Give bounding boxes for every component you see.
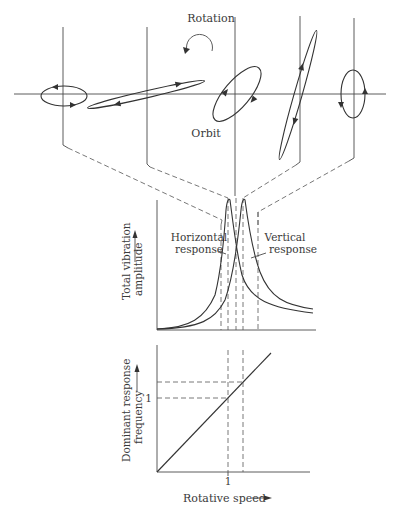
orbit-arrow-icon xyxy=(291,117,299,125)
orbit-arrow-icon xyxy=(298,62,306,70)
orbit-arrow-icon xyxy=(70,102,76,108)
orbit-to-response-connectors xyxy=(68,148,349,225)
orbit-label: Orbit xyxy=(191,127,221,140)
svg-text:response: response xyxy=(269,243,317,255)
frequency-chart: 1 1 Dominant response frequency Rotative… xyxy=(120,345,310,505)
rotative-speed-label: Rotative speed xyxy=(183,492,266,505)
amplitude-chart: Total vibration amplitude Horizontal res… xyxy=(120,198,317,330)
vertical-response-label: Vertical response xyxy=(251,231,317,258)
rotation-indicator: Rotation xyxy=(183,12,235,54)
y-tick-1: 1 xyxy=(145,392,152,404)
x-tick-1: 1 xyxy=(225,475,232,487)
svg-text:response: response xyxy=(175,243,223,255)
frequency-guides xyxy=(157,350,243,472)
right-arrow-icon xyxy=(264,496,272,501)
frequency-ylabel: Dominant response frequency xyxy=(120,359,144,462)
orbit-arrow-icon xyxy=(52,84,58,90)
svg-text:Total vibration: Total vibration xyxy=(120,222,132,300)
up-arrow-icon xyxy=(133,230,138,238)
horizontal-response-curve xyxy=(157,199,313,329)
rotation-arrow-icon xyxy=(183,47,190,54)
orbit-arrow-icon xyxy=(113,101,121,108)
orbit-panel: Rotation Orbit xyxy=(14,12,386,225)
orbit-3 xyxy=(205,60,273,133)
orbit-arrow-icon xyxy=(248,95,257,104)
orbit-4 xyxy=(273,29,323,162)
speed-frequency-line xyxy=(157,353,271,472)
horizontal-response-label: Horizontal response xyxy=(171,231,228,255)
svg-text:amplitude: amplitude xyxy=(132,242,144,296)
orbit-1 xyxy=(41,84,87,108)
orbit-arrow-icon xyxy=(362,88,368,94)
amplitude-ylabel: Total vibration amplitude xyxy=(120,222,144,300)
rotation-label: Rotation xyxy=(187,12,235,25)
svg-text:Dominant response: Dominant response xyxy=(120,359,132,462)
svg-text:Vertical: Vertical xyxy=(264,231,307,243)
svg-text:frequency: frequency xyxy=(132,391,144,444)
rotor-response-diagram: Rotation Orbit Total vibration amplitude xyxy=(0,0,399,512)
svg-text:Horizontal: Horizontal xyxy=(171,231,228,243)
up-arrow-icon xyxy=(135,364,140,372)
